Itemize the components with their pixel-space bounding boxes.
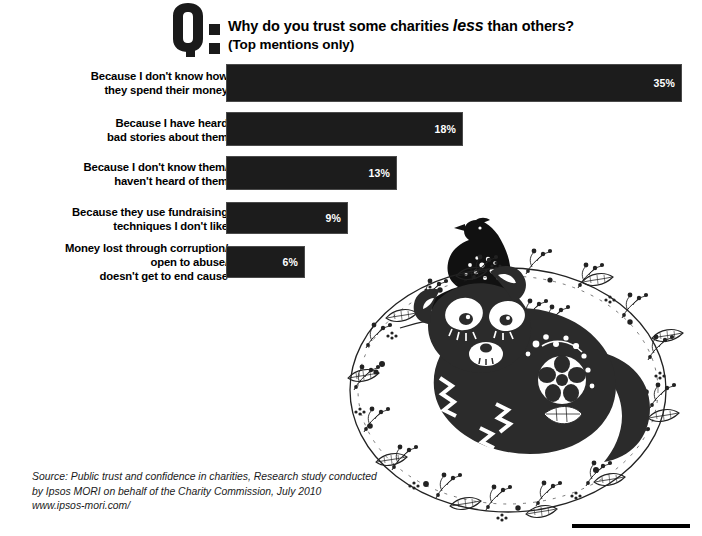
- bar-label-line: Because they use fundraising: [23, 205, 228, 219]
- bar-label: Because I don't know how they spend thei…: [23, 69, 228, 97]
- bar-value-label: 18%: [434, 123, 456, 135]
- bar-track: 13%: [226, 156, 397, 190]
- bar-row: Because they use fundraising techniques …: [0, 202, 702, 238]
- title-emphasis: less: [453, 17, 484, 34]
- bar-row: Money lost through corruption/ open to a…: [0, 246, 702, 282]
- bar-label: Because I don't know them/ haven't heard…: [23, 160, 228, 188]
- bar-label-line: Because I don't know how: [23, 69, 228, 83]
- bar-label-line: Because I don't know them/: [23, 160, 228, 174]
- bar-track: 9%: [226, 202, 348, 234]
- page-subtitle: (Top mentions only): [228, 36, 698, 54]
- title-part-after: than others?: [484, 18, 575, 34]
- title-part-before: Why do you trust some charities: [228, 18, 453, 34]
- source-line-1: Source: Public trust and confidence in c…: [32, 470, 432, 485]
- infographic-page: Why do you trust some charities less tha…: [0, 0, 702, 536]
- bar-label: Because I have heard bad stories about t…: [23, 116, 228, 144]
- question-mark-q-icon: [168, 2, 226, 58]
- bar-chart: Because I don't know how they spend thei…: [0, 62, 702, 294]
- bar-value-label: 9%: [325, 212, 341, 224]
- page-title: Why do you trust some charities less tha…: [228, 16, 698, 36]
- bar-track: 6%: [226, 246, 305, 278]
- source-note: Source: Public trust and confidence in c…: [32, 470, 432, 514]
- bar-label: Money lost through corruption/ open to a…: [23, 241, 228, 283]
- header-text-block: Why do you trust some charities less tha…: [228, 16, 698, 54]
- source-url: www.ipsos-mori.com/: [32, 499, 432, 514]
- footer-divider: [572, 524, 690, 528]
- quote-block: “ If there's a small charity that you've…: [0, 318, 400, 453]
- bar-row: Because I don't know them/ haven't heard…: [0, 156, 702, 194]
- source-line-2: by Ipsos MORI on behalf of the Charity C…: [32, 485, 432, 500]
- bar-track: 35%: [226, 64, 682, 102]
- bar-value-label: 35%: [653, 77, 675, 89]
- bar-label-line: they spend their money: [23, 83, 228, 97]
- bar-track: 18%: [226, 112, 463, 146]
- bar-fill: 13%: [226, 156, 397, 190]
- monkey-figure: [414, 266, 650, 462]
- bar-fill: 9%: [226, 202, 348, 234]
- bar-label-line: haven't heard of them: [23, 174, 228, 188]
- bar-label: Because they use fundraising techniques …: [23, 205, 228, 233]
- bar-row: Because I don't know how they spend thei…: [0, 64, 702, 104]
- bar-value-label: 6%: [282, 256, 298, 268]
- bar-fill: 18%: [226, 112, 463, 146]
- bar-fill: 35%: [226, 64, 682, 102]
- bar-label-line: open to abuse/: [23, 255, 228, 269]
- bar-label-line: bad stories about them: [23, 130, 228, 144]
- bar-fill: 6%: [226, 246, 305, 278]
- bar-label-line: techniques I don't like: [23, 219, 228, 233]
- bar-row: Because I have heard bad stories about t…: [0, 112, 702, 150]
- bar-label-line: doesn't get to end cause: [23, 269, 228, 283]
- bar-label-line: Money lost through corruption/: [23, 241, 228, 255]
- bar-label-line: Because I have heard: [23, 116, 228, 130]
- bar-value-label: 13%: [368, 167, 390, 179]
- header: Why do you trust some charities less tha…: [0, 0, 702, 62]
